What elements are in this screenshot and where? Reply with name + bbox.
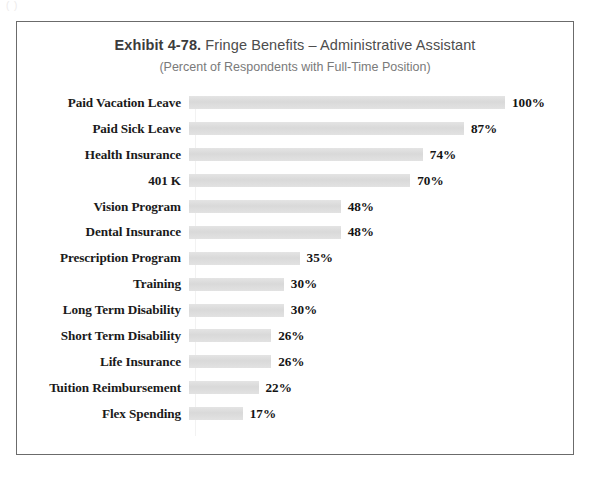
bar-value-label: 26% xyxy=(278,354,304,370)
bar-category-label: Paid Vacation Leave xyxy=(17,95,189,111)
bar-value-label: 17% xyxy=(250,406,276,422)
bar-value-label: 30% xyxy=(291,276,317,292)
chart-title-text: Fringe Benefits – Administrative Assista… xyxy=(205,37,475,53)
bar-value-label: 87% xyxy=(471,121,497,137)
chart-title: Exhibit 4-78. Fringe Benefits – Administ… xyxy=(17,36,573,56)
bar-track: 74% xyxy=(189,142,573,168)
bar-value-label: 48% xyxy=(348,199,374,215)
bar-category-label: Flex Spending xyxy=(17,406,189,422)
bar-category-label: Vision Program xyxy=(17,199,189,215)
bar-track: 26% xyxy=(189,349,573,375)
bar-fill xyxy=(189,355,271,368)
bar-fill xyxy=(189,381,259,394)
bar-track: 17% xyxy=(189,401,573,427)
bar-category-label: Dental Insurance xyxy=(17,224,189,240)
exhibit-frame: Exhibit 4-78. Fringe Benefits – Administ… xyxy=(16,21,574,455)
bar-category-label: Paid Sick Leave xyxy=(17,121,189,137)
bar-fill xyxy=(189,252,300,265)
bar-track: 30% xyxy=(189,297,573,323)
bar-row: Tuition Reimbursement22% xyxy=(17,375,573,401)
bar-value-label: 22% xyxy=(266,380,292,396)
bar-track: 70% xyxy=(189,168,573,194)
scan-artifact-text: ( ) xyxy=(0,0,594,18)
title-block: Exhibit 4-78. Fringe Benefits – Administ… xyxy=(17,22,573,75)
bar-category-label: Life Insurance xyxy=(17,354,189,370)
bar-row: 401 K70% xyxy=(17,168,573,194)
bar-value-label: 26% xyxy=(278,328,304,344)
bar-track: 87% xyxy=(189,116,573,142)
bar-row: Long Term Disability30% xyxy=(17,297,573,323)
bar-track: 22% xyxy=(189,375,573,401)
chart-subtitle: (Percent of Respondents with Full-Time P… xyxy=(17,59,573,75)
bar-row: Life Insurance26% xyxy=(17,349,573,375)
bar-track: 30% xyxy=(189,271,573,297)
bar-fill xyxy=(189,174,410,187)
bar-category-label: Long Term Disability xyxy=(17,302,189,318)
bar-row: Vision Program48% xyxy=(17,194,573,220)
bar-value-label: 70% xyxy=(417,173,443,189)
bar-fill xyxy=(189,148,423,161)
bar-fill xyxy=(189,122,464,135)
bar-fill xyxy=(189,407,243,420)
bar-fill xyxy=(189,200,341,213)
bar-fill xyxy=(189,304,284,317)
bar-track: 35% xyxy=(189,245,573,271)
bar-fill xyxy=(189,226,341,239)
bar-row: Prescription Program35% xyxy=(17,245,573,271)
bar-value-label: 30% xyxy=(291,302,317,318)
bar-value-label: 100% xyxy=(512,95,545,111)
bar-value-label: 35% xyxy=(307,250,333,266)
bar-track: 48% xyxy=(189,194,573,220)
bar-category-label: Tuition Reimbursement xyxy=(17,380,189,396)
bar-row: Dental Insurance48% xyxy=(17,219,573,245)
bar-fill xyxy=(189,278,284,291)
bar-track: 26% xyxy=(189,323,573,349)
bar-row: Training30% xyxy=(17,271,573,297)
bar-row: Paid Vacation Leave100% xyxy=(17,90,573,116)
bar-row: Short Term Disability26% xyxy=(17,323,573,349)
bar-track: 100% xyxy=(189,90,573,116)
bar-fill xyxy=(189,329,271,342)
bar-row: Flex Spending17% xyxy=(17,401,573,427)
bar-track: 48% xyxy=(189,219,573,245)
exhibit-number: Exhibit 4-78. xyxy=(114,37,201,53)
bar-category-label: Short Term Disability xyxy=(17,328,189,344)
bar-value-label: 48% xyxy=(348,224,374,240)
plot-area: Paid Vacation Leave100%Paid Sick Leave87… xyxy=(17,90,573,454)
bar-row: Paid Sick Leave87% xyxy=(17,116,573,142)
bar-fill xyxy=(189,96,505,109)
bar-list: Paid Vacation Leave100%Paid Sick Leave87… xyxy=(17,90,573,427)
bar-value-label: 74% xyxy=(430,147,456,163)
bar-category-label: 401 K xyxy=(17,173,189,189)
bar-category-label: Training xyxy=(17,276,189,292)
bar-category-label: Health Insurance xyxy=(17,147,189,163)
bar-row: Health Insurance74% xyxy=(17,142,573,168)
bar-category-label: Prescription Program xyxy=(17,250,189,266)
